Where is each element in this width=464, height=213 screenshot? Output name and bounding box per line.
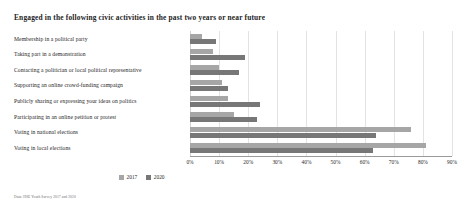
category-label: Voting in national elections bbox=[14, 129, 78, 135]
x-tick-label: 40% bbox=[301, 159, 311, 165]
bar-2020[interactable] bbox=[190, 117, 257, 122]
gridline-80% bbox=[423, 31, 424, 156]
plot-area bbox=[190, 31, 452, 156]
category-label: Taking part in a demonstration bbox=[14, 51, 86, 57]
x-tick-label: 60% bbox=[360, 159, 370, 165]
bar-2020[interactable] bbox=[190, 55, 245, 60]
category-label: Voting in local elections bbox=[14, 145, 71, 151]
x-tick-label: 10% bbox=[214, 159, 224, 165]
chart-legend: 2017 2020 bbox=[119, 174, 165, 180]
legend-item-2020[interactable]: 2020 bbox=[146, 174, 164, 180]
x-tick-label: 50% bbox=[331, 159, 341, 165]
x-tick-label: 20% bbox=[243, 159, 253, 165]
category-label: Publicly sharing or expressing your idea… bbox=[14, 98, 137, 104]
bar-2020[interactable] bbox=[190, 39, 216, 44]
x-tick-label: 90% bbox=[447, 159, 457, 165]
legend-swatch-2020-icon bbox=[146, 175, 151, 180]
legend-swatch-2017-icon bbox=[119, 175, 124, 180]
category-label: Participating in an online petition or p… bbox=[14, 114, 116, 120]
bar-2017[interactable] bbox=[190, 112, 234, 117]
civic-activities-bar-chart: Engaged in the following civic activitie… bbox=[0, 0, 464, 213]
x-tick-label: 30% bbox=[272, 159, 282, 165]
legend-label-2017: 2017 bbox=[127, 174, 138, 180]
bar-2017[interactable] bbox=[190, 49, 213, 54]
x-tick-label: 70% bbox=[389, 159, 399, 165]
source-note: Data: HSE Youth Survey 2017 and 2020 bbox=[14, 195, 76, 199]
bar-2017[interactable] bbox=[190, 127, 411, 132]
bar-2020[interactable] bbox=[190, 70, 239, 75]
category-label: Contacting a politician or local politic… bbox=[14, 67, 141, 73]
bar-2017[interactable] bbox=[190, 65, 219, 70]
bar-2017[interactable] bbox=[190, 80, 222, 85]
category-label: Membership in a political party bbox=[14, 36, 88, 42]
bar-2017[interactable] bbox=[190, 96, 228, 101]
bar-2017[interactable] bbox=[190, 143, 426, 148]
bar-2020[interactable] bbox=[190, 148, 373, 153]
x-tick-label: 80% bbox=[418, 159, 428, 165]
gridline-90% bbox=[452, 31, 453, 156]
x-axis-line bbox=[190, 156, 452, 157]
bar-2017[interactable] bbox=[190, 34, 202, 39]
gridline-70% bbox=[394, 31, 395, 156]
bar-2020[interactable] bbox=[190, 86, 228, 91]
category-label: Supporting an online crowd-funding campa… bbox=[14, 82, 123, 88]
bar-2020[interactable] bbox=[190, 133, 376, 138]
bar-2020[interactable] bbox=[190, 102, 260, 107]
legend-item-2017[interactable]: 2017 bbox=[119, 174, 137, 180]
legend-label-2020: 2020 bbox=[154, 174, 165, 180]
chart-title: Engaged in the following civic activitie… bbox=[14, 13, 265, 22]
x-tick-label: 0% bbox=[186, 159, 193, 165]
